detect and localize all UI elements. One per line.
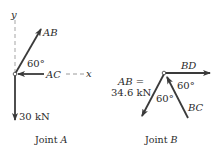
angle-60-label: 60° bbox=[27, 58, 45, 69]
y-axis-label: y bbox=[10, 9, 17, 20]
joint-b-pin bbox=[162, 71, 166, 75]
load-30kn-label: 30 kN bbox=[19, 111, 50, 122]
angle-60-right-label: 60° bbox=[177, 80, 195, 91]
joint-b-diagram: BD AB = 34.6 kN BC 60° 60° Joint B bbox=[111, 60, 210, 145]
force-bd-label: BD bbox=[180, 60, 196, 71]
force-ab-value-label-line2: 34.6 kN bbox=[111, 87, 152, 98]
force-ab-label: AB bbox=[42, 27, 58, 38]
joint-b-caption: Joint B bbox=[144, 134, 178, 145]
joint-a-caption: Joint A bbox=[34, 134, 68, 145]
angle-60-left-label: 60° bbox=[156, 93, 174, 104]
force-ac-label: AC bbox=[45, 69, 61, 80]
force-bc-label: BC bbox=[187, 102, 204, 113]
joint-a-pin bbox=[13, 72, 17, 76]
free-body-diagrams: y AB 60° AC x 30 kN Joint A BD AB = 34.6… bbox=[0, 0, 220, 152]
force-ab-value-label-line1: AB = bbox=[117, 76, 144, 87]
x-axis-label: x bbox=[86, 68, 92, 79]
joint-a-diagram: y AB 60° AC x 30 kN Joint A bbox=[10, 9, 92, 145]
